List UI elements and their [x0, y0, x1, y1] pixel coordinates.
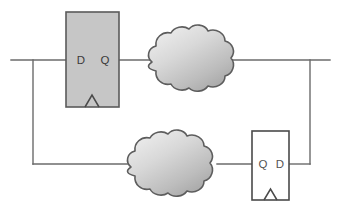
flipflop-top-body [66, 12, 119, 107]
cloud-bottom-shape [128, 130, 213, 196]
flipflop-top-q-label: Q [101, 54, 110, 66]
circuit-canvas: D Q Q D [0, 0, 339, 207]
flipflop-top[interactable]: D Q [66, 12, 119, 107]
flipflop-bottom[interactable]: Q D [252, 131, 289, 200]
cloud-top-shape [149, 25, 234, 91]
circuit-diagram: D Q Q D [0, 0, 339, 207]
flipflop-bottom-d-label: D [276, 158, 284, 170]
flipflop-bottom-q-label: Q [259, 158, 268, 170]
flipflop-top-d-label: D [77, 54, 85, 66]
cloud-top[interactable] [149, 25, 234, 91]
cloud-bottom[interactable] [128, 130, 213, 196]
